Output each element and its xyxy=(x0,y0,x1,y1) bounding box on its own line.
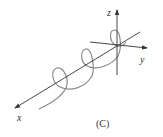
z-axis-label: z xyxy=(106,7,111,18)
helix-diagram: x y z (C) xyxy=(0,0,163,137)
y-axis xyxy=(90,42,147,48)
helix-curve xyxy=(39,30,126,109)
y-axis-label: y xyxy=(139,54,145,65)
x-axis-label: x xyxy=(16,112,22,123)
x-axis xyxy=(15,32,140,108)
figure-caption: (C) xyxy=(96,118,109,130)
